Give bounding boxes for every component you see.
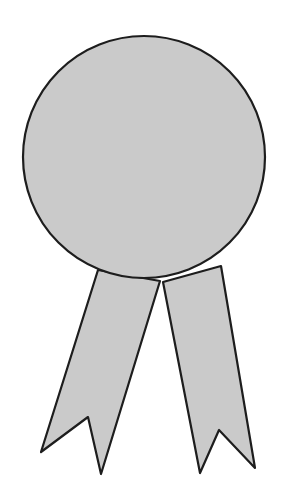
medallion-circle (23, 36, 265, 278)
illustration-canvas: Award Ribbon Rosette A plain grey award … (0, 0, 291, 503)
medallion-group (23, 36, 265, 278)
award-ribbon-illustration: Award Ribbon Rosette A plain grey award … (0, 0, 291, 503)
